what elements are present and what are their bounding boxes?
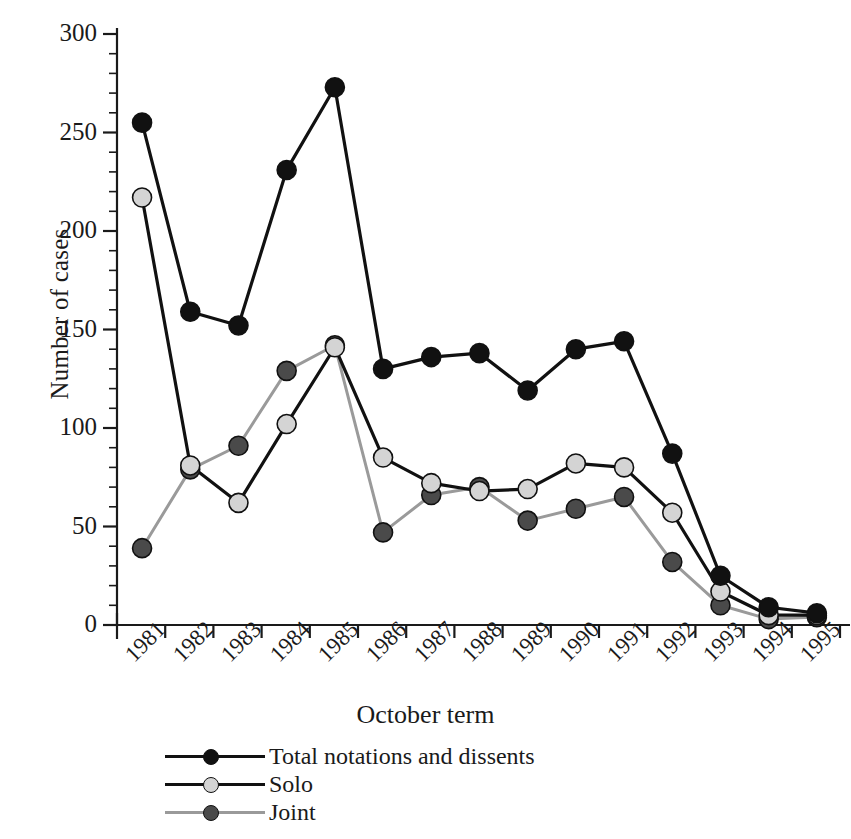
data-point (325, 78, 344, 97)
legend-marker-icon (203, 749, 219, 765)
data-point (663, 503, 682, 522)
data-point (566, 454, 585, 473)
data-point (374, 523, 393, 542)
series-line-solo (142, 198, 817, 616)
data-point (229, 436, 248, 455)
legend-swatch-dark-gray-circle (165, 800, 265, 824)
data-point (422, 348, 441, 367)
data-point (663, 552, 682, 571)
data-point (133, 188, 152, 207)
legend-marker-icon (203, 777, 219, 793)
data-point (470, 344, 489, 363)
legend-label: Joint (269, 799, 316, 826)
data-point (518, 480, 537, 499)
data-point (615, 332, 634, 351)
data-point (277, 415, 296, 434)
legend-item[interactable]: Solo (165, 770, 535, 798)
chart-legend: Total notations and dissentsSoloJoint (165, 742, 535, 826)
data-point (133, 539, 152, 558)
data-point (374, 448, 393, 467)
data-point (518, 511, 537, 530)
data-point (374, 359, 393, 378)
data-point (181, 302, 200, 321)
data-point (181, 456, 200, 475)
data-point (518, 381, 537, 400)
data-point (422, 474, 441, 493)
chart-canvas: Number of cases 050100150200250300 19811… (0, 0, 851, 839)
data-point (229, 316, 248, 335)
data-point (615, 487, 634, 506)
data-point (229, 493, 248, 512)
legend-swatch-black-circle (165, 744, 265, 768)
data-point (615, 458, 634, 477)
legend-marker-icon (203, 805, 219, 821)
data-point (325, 338, 344, 357)
data-point (807, 604, 826, 623)
data-point (470, 482, 489, 501)
legend-label: Solo (269, 771, 313, 798)
legend-item[interactable]: Total notations and dissents (165, 742, 535, 770)
data-point (663, 444, 682, 463)
data-point (566, 340, 585, 359)
data-point (277, 361, 296, 380)
y-axis-ticks (103, 34, 117, 625)
legend-swatch-light-gray-circle (165, 772, 265, 796)
legend-label: Total notations and dissents (269, 743, 535, 770)
data-point (566, 499, 585, 518)
data-point (277, 160, 296, 179)
legend-item[interactable]: Joint (165, 798, 535, 826)
data-point (133, 113, 152, 132)
x-axis-title: October term (0, 700, 851, 730)
data-point (759, 598, 778, 617)
data-point (711, 566, 730, 585)
axis-lines (117, 28, 850, 625)
